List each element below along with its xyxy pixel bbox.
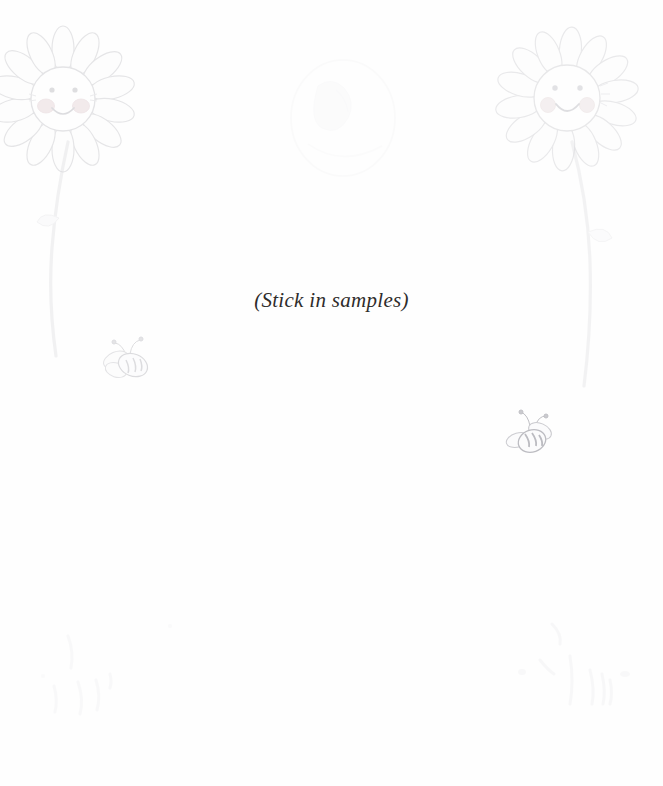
bee-wing-right-lower xyxy=(505,430,532,450)
daisy-cheek-left-r xyxy=(73,99,90,113)
grass-strokes-left xyxy=(40,618,210,738)
daisy-petals-right xyxy=(494,26,640,171)
daisy-eye-left-r xyxy=(72,87,77,92)
daisy-cheek-right-r xyxy=(580,98,595,113)
daisy-eye-right-l xyxy=(552,85,557,90)
bee-antennae-right xyxy=(519,410,548,427)
flower-stem-left xyxy=(10,140,120,360)
bee-antennae-left xyxy=(112,337,143,355)
bee-body-right xyxy=(515,426,549,456)
daisy-cheek-right-l xyxy=(541,98,556,113)
grass-strokes-right xyxy=(478,618,658,738)
bee-stripes-left xyxy=(126,358,142,373)
daisy-cheek-left-l xyxy=(38,99,55,113)
bee-wing-right-upper xyxy=(526,419,554,442)
daisy-center-left xyxy=(31,67,95,131)
daisy-smile-left xyxy=(52,108,74,114)
daisy-center-right xyxy=(534,65,600,131)
flower-stem-right xyxy=(530,140,640,390)
bee-stripes-right xyxy=(525,433,542,447)
bee-body-left xyxy=(115,349,151,381)
daisy-eye-left-l xyxy=(49,87,54,92)
bee-right xyxy=(502,408,558,462)
daisy-smile-right xyxy=(556,104,579,111)
scrapbook-page: (Stick in samples) xyxy=(0,0,663,786)
bee-wing-left-lower xyxy=(103,360,128,380)
daisy-flower-right xyxy=(492,24,642,174)
bee-wing-left-upper xyxy=(101,348,131,373)
bleed-through-smudge xyxy=(278,46,408,186)
bee-left xyxy=(100,334,156,388)
daisy-flower-left xyxy=(0,24,138,174)
daisy-petals-left xyxy=(0,26,137,172)
stick-in-samples-caption: (Stick in samples) xyxy=(0,288,663,313)
daisy-eye-right-r xyxy=(577,85,582,90)
